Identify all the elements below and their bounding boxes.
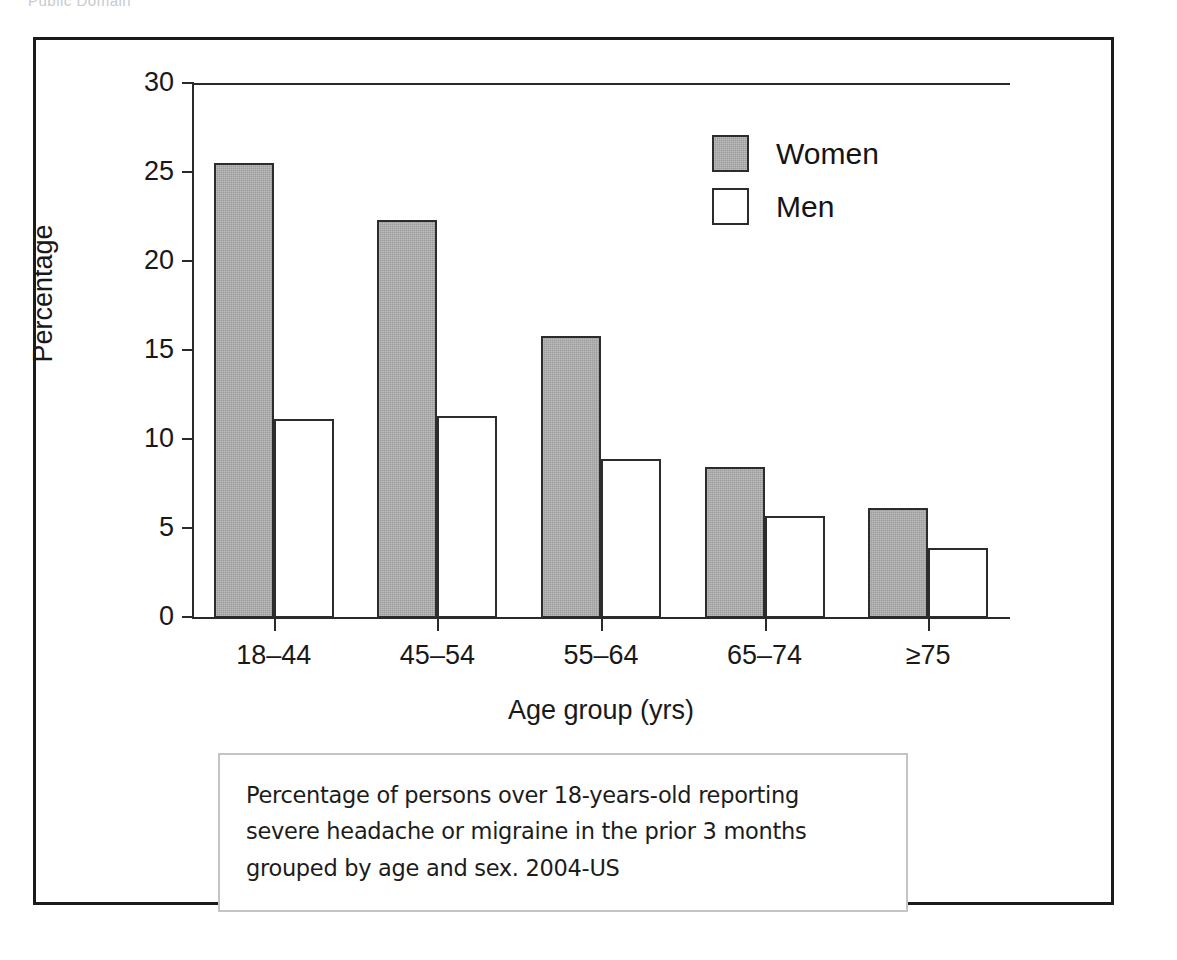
caption-line-1: Percentage of persons over 18-years-old … [246, 777, 880, 813]
y-axis-tick [182, 527, 194, 529]
y-axis-tick [182, 349, 194, 351]
y-axis-tick-label: 25 [104, 158, 174, 185]
x-axis-tick [765, 617, 767, 631]
legend-swatch-women-icon [712, 135, 749, 172]
x-axis-tick-label: 45–54 [400, 640, 475, 671]
y-axis-tick-label: 30 [104, 69, 174, 96]
y-axis-tick [182, 260, 194, 262]
bar-women-4 [868, 508, 928, 618]
y-axis-tick-label: 20 [104, 247, 174, 274]
legend-item-women: Women [712, 135, 879, 172]
bar-women-3 [705, 467, 765, 618]
bar-women-0 [214, 163, 274, 618]
legend-swatch-men-icon [712, 188, 749, 225]
y-axis-tick-label: 15 [104, 336, 174, 363]
legend-label-women: Women [776, 139, 879, 169]
caption-line-2: severe headache or migraine in the prior… [246, 813, 880, 849]
plot-top-rule [192, 83, 1010, 85]
y-axis-tick-label: 0 [104, 603, 174, 630]
y-axis-tick [182, 616, 194, 618]
bar-women-1 [377, 220, 437, 618]
chart-legend: Women Men [712, 135, 879, 241]
bar-women-2 [541, 336, 601, 618]
caption-box: Percentage of persons over 18-years-old … [218, 753, 908, 912]
x-axis-tick-label: ≥75 [906, 640, 951, 671]
y-axis-tick [182, 438, 194, 440]
x-axis-tick [274, 617, 276, 631]
x-axis-tick [437, 617, 439, 631]
x-axis-tick-label: 55–64 [563, 640, 638, 671]
x-axis-title: Age group (yrs) [192, 695, 1010, 726]
y-axis-tick [182, 171, 194, 173]
bar-men-2 [601, 459, 661, 618]
x-axis-tick [601, 617, 603, 631]
legend-label-men: Men [776, 192, 834, 222]
bar-men-4 [928, 548, 988, 618]
x-axis-tick-label: 18–44 [236, 640, 311, 671]
legend-item-men: Men [712, 188, 879, 225]
y-axis-title: Percentage [28, 224, 59, 362]
caption-line-3: grouped by age and sex. 2004-US [246, 850, 880, 886]
figure-frame: Percentage 051015202530 18–4445–5455–646… [33, 37, 1114, 905]
y-axis-tick [182, 82, 194, 84]
x-axis-tick-label: 65–74 [727, 640, 802, 671]
x-axis-tick [928, 617, 930, 631]
bar-men-1 [437, 416, 497, 618]
bar-men-3 [765, 516, 825, 618]
y-axis-tick-label: 10 [104, 425, 174, 452]
y-axis-tick-label: 5 [104, 514, 174, 541]
bar-men-0 [274, 419, 334, 618]
attribution-text: Public Domain [28, 0, 131, 9]
